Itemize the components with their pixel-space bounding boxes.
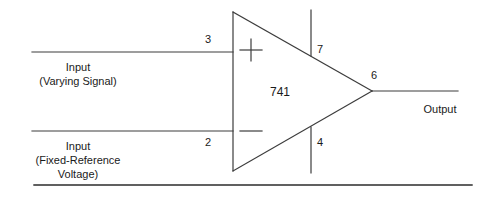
input-varying-signal-line-1: Input <box>39 60 116 74</box>
pin-number-7: 7 <box>317 43 323 56</box>
output-caption: Output <box>423 102 456 116</box>
schematic-canvas: 3 2 7 4 6 741 Input (Varying Signal) Inp… <box>0 0 482 197</box>
pin-number-4: 4 <box>317 136 323 149</box>
pin-number-2: 2 <box>205 136 211 149</box>
input-varying-signal-line-2: (Varying Signal) <box>39 74 116 88</box>
input-fixed-reference-line-2: (Fixed-Reference <box>36 153 121 167</box>
opamp-triangle-upper-edge <box>233 12 372 91</box>
pin-number-6: 6 <box>371 69 377 82</box>
pin-number-3: 3 <box>205 33 211 46</box>
input-varying-signal-caption: Input (Varying Signal) <box>39 60 116 88</box>
input-fixed-reference-line-3: Voltage) <box>36 167 121 181</box>
input-fixed-reference-caption: Input (Fixed-Reference Voltage) <box>36 139 121 181</box>
chip-label-741: 741 <box>270 86 290 99</box>
input-fixed-reference-line-1: Input <box>36 139 121 153</box>
